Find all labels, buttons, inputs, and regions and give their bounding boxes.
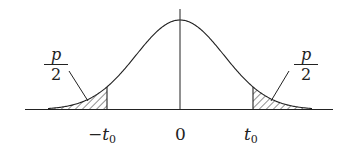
left-fraction-denominator: 2 (44, 67, 68, 83)
left-fraction-numerator: p (44, 47, 68, 63)
right-tail-shaded-region (253, 87, 308, 110)
left-tail-area-label: p 2 (44, 47, 68, 83)
right-fraction-denominator: 2 (294, 67, 318, 83)
tick-label-pos-t0: t0 (244, 126, 258, 145)
t-variable: t (244, 124, 251, 144)
tick-label-zero: 0 (175, 126, 186, 143)
left-tail-shaded-region (52, 87, 107, 110)
minus-sign: − (88, 124, 102, 144)
right-tail-area-label: p 2 (294, 47, 318, 83)
tick-label-neg-t0: −t0 (88, 126, 116, 145)
subscript-zero: 0 (109, 133, 116, 146)
subscript-zero: 0 (251, 133, 258, 146)
left-label-leader-line (69, 71, 88, 101)
right-fraction-numerator: p (294, 47, 318, 63)
right-label-leader-line (271, 71, 289, 101)
distribution-diagram: p 2 p 2 −t0 0 t0 (0, 0, 358, 156)
